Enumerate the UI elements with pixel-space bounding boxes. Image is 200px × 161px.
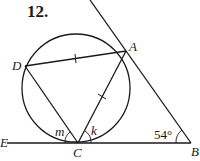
problem-number: 12.: [27, 3, 48, 20]
angle-label-k: k: [91, 124, 97, 137]
point-label-b: B: [191, 145, 199, 158]
point-label-c: C: [73, 146, 82, 159]
chord-dc: [25, 66, 78, 143]
angle-arc-b: [176, 130, 182, 143]
geometry-figure: 12. D A C B E m k 54°: [0, 0, 200, 161]
angle-label-b: 54°: [154, 128, 172, 141]
tangent-line-ab: [90, 0, 191, 143]
point-label-e: E: [0, 136, 8, 149]
angle-label-m: m: [55, 125, 64, 138]
point-label-a: A: [129, 40, 137, 53]
tick-mark-da: [75, 54, 76, 63]
circle: [22, 34, 130, 142]
point-label-d: D: [12, 59, 21, 72]
